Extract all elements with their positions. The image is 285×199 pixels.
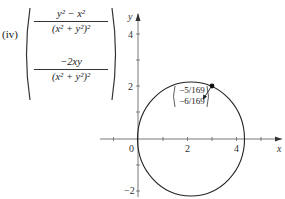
annotation-brackets — [172, 85, 212, 109]
x-tick-label: 0 — [129, 143, 134, 154]
plot-area: 0 2 4 4 2 −2 x y — [0, 0, 285, 199]
vector-annotation: −5/169 −6/169 — [172, 85, 212, 107]
x-axis-label: x — [276, 143, 282, 154]
x-axis-arrow-icon — [275, 137, 282, 142]
y-axis-label: y — [127, 11, 133, 22]
x-tick-label: 2 — [185, 143, 190, 154]
y-tick-label: 2 — [128, 81, 133, 92]
x-tick-label: 4 — [234, 143, 239, 154]
y-tick-label: −2 — [124, 185, 135, 196]
y-axis-arrow-icon — [136, 13, 141, 21]
y-tick-label: 4 — [128, 29, 133, 40]
